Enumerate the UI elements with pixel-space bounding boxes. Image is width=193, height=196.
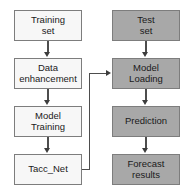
edge-model-loading-to-prediction-arrowhead [142, 100, 148, 105]
edge-prediction-to-forecast-results-arrowhead [142, 148, 148, 153]
node-training-set-label: Training set [31, 15, 65, 37]
node-model-loading-label: Model Loading [129, 63, 163, 85]
flowchart-canvas: Training set Data enhancement Model Trai… [0, 0, 193, 196]
edge-tacc-net-to-model-loading-segment-c [89, 73, 107, 74]
node-data-enhancement-label: Data enhancement [19, 63, 77, 85]
node-prediction[interactable]: Prediction [112, 106, 180, 137]
node-tacc-net[interactable]: Tacc_Net [14, 154, 82, 185]
node-forecast-results-label: Forecast results [128, 159, 165, 181]
node-test-set-label: Test set [137, 15, 154, 37]
node-model-training[interactable]: Model Training [14, 106, 82, 137]
node-forecast-results[interactable]: Forecast results [112, 154, 180, 185]
edge-test-set-to-model-loading-arrowhead [142, 52, 148, 57]
node-training-set[interactable]: Training set [14, 10, 82, 41]
edge-training-set-to-data-enhancement-arrowhead [44, 52, 50, 57]
node-tacc-net-label: Tacc_Net [28, 164, 68, 175]
node-model-training-label: Model Training [31, 111, 65, 133]
node-model-loading[interactable]: Model Loading [112, 58, 180, 89]
edge-tacc-net-to-model-loading-segment-b [89, 73, 90, 170]
node-data-enhancement[interactable]: Data enhancement [14, 58, 82, 89]
edge-tacc-net-to-model-loading-arrowhead [106, 70, 111, 76]
node-prediction-label: Prediction [125, 116, 167, 127]
node-test-set[interactable]: Test set [112, 10, 180, 41]
edge-model-training-to-tacc-net-arrowhead [44, 148, 50, 153]
edge-data-enhancement-to-model-training-arrowhead [44, 100, 50, 105]
